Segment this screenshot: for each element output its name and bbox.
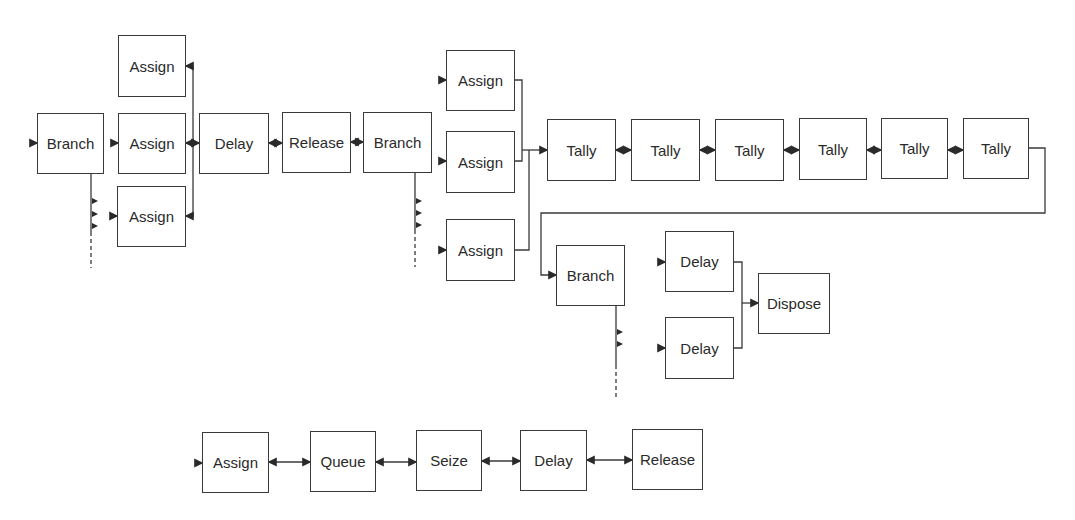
assign-block-row3[interactable]: Assign: [202, 432, 269, 493]
dispose-block[interactable]: Dispose: [758, 273, 830, 334]
assign-block-bottom[interactable]: Assign: [117, 186, 186, 247]
branch-block-3[interactable]: Branch: [556, 245, 625, 306]
release-block-row3[interactable]: Release: [632, 429, 703, 490]
block-label: Delay: [680, 253, 718, 270]
block-label: Assign: [129, 135, 174, 152]
tally-block-2[interactable]: Tally: [631, 119, 700, 181]
tally-block-5[interactable]: Tally: [881, 118, 948, 179]
assign-block-mid[interactable]: Assign: [118, 113, 186, 174]
block-label: Branch: [47, 135, 95, 152]
branch-block-2[interactable]: Branch: [363, 112, 432, 173]
block-label: Assign: [129, 208, 174, 225]
block-label: Assign: [129, 58, 174, 75]
block-label: Branch: [374, 134, 422, 151]
tally-block-1[interactable]: Tally: [547, 119, 616, 181]
block-label: Tally: [650, 142, 680, 159]
block-label: Assign: [213, 454, 258, 471]
block-label: Delay: [534, 452, 572, 469]
block-label: Release: [640, 451, 695, 468]
assign-block-b[interactable]: Assign: [446, 131, 515, 193]
tally-block-6[interactable]: Tally: [963, 118, 1029, 179]
block-label: Dispose: [767, 295, 821, 312]
block-label: Release: [289, 134, 344, 151]
delay-block-bottom[interactable]: Delay: [665, 317, 734, 379]
tally-block-3[interactable]: Tally: [715, 119, 784, 181]
tally-block-4[interactable]: Tally: [799, 118, 867, 180]
block-label: Tally: [981, 140, 1011, 157]
assign-block-a[interactable]: Assign: [446, 50, 515, 111]
assign-block-c[interactable]: Assign: [446, 219, 515, 281]
queue-block[interactable]: Queue: [310, 431, 376, 492]
block-label: Seize: [430, 452, 468, 469]
delay-block[interactable]: Delay: [199, 113, 269, 174]
block-label: Tally: [566, 142, 596, 159]
block-label: Assign: [458, 242, 503, 259]
block-label: Assign: [458, 72, 503, 89]
release-block[interactable]: Release: [282, 112, 351, 173]
block-label: Assign: [458, 154, 503, 171]
block-label: Branch: [567, 267, 615, 284]
block-label: Tally: [734, 142, 764, 159]
block-label: Delay: [680, 340, 718, 357]
block-label: Queue: [320, 453, 365, 470]
block-label: Tally: [899, 140, 929, 157]
branch-block[interactable]: Branch: [37, 113, 104, 174]
block-label: Tally: [818, 141, 848, 158]
seize-block[interactable]: Seize: [416, 430, 482, 491]
delay-block-top[interactable]: Delay: [665, 231, 734, 292]
assign-block-top[interactable]: Assign: [118, 35, 186, 97]
delay-block-row3[interactable]: Delay: [520, 430, 587, 491]
block-label: Delay: [215, 135, 253, 152]
